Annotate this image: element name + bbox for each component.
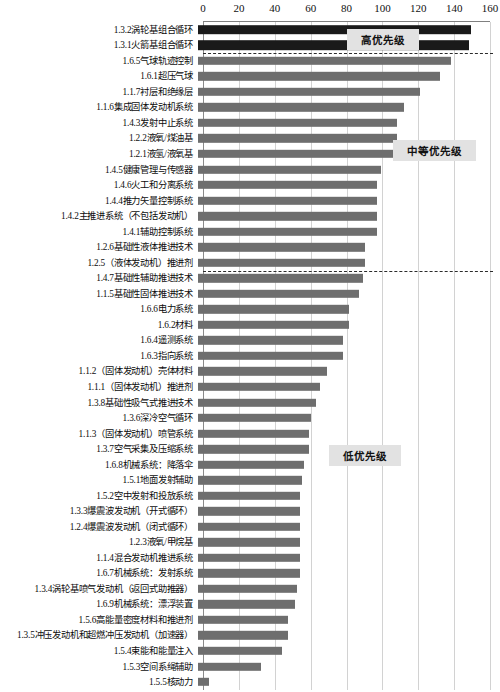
bar	[198, 150, 397, 158]
bar	[198, 181, 377, 189]
category-label: 1.2.2液氧/煤油基	[0, 133, 198, 143]
bar-row: 1.1.2（固体发动机）壳体材料	[0, 364, 500, 380]
bar-row: 1.3.3爆震波发动机（开式循环）	[0, 503, 500, 519]
bar	[198, 196, 377, 204]
bar-cell	[198, 597, 500, 613]
category-label: 1.2.4爆震波发动机（闭式循环）	[0, 522, 198, 532]
bar-row: 1.4.1辅助控制系统	[0, 224, 500, 240]
bar	[198, 72, 440, 80]
bar-row: 1.5.5核动力	[0, 674, 500, 690]
bar-cell	[198, 410, 500, 426]
separator-medium-low	[203, 271, 493, 272]
bar-cell	[198, 333, 500, 349]
bar-row: 1.1.4混合发动机推进系统	[0, 550, 500, 566]
bar	[198, 616, 288, 624]
bar-cell	[198, 317, 500, 333]
category-label: 1.4.2主推进系统（不包括发动机）	[0, 211, 198, 221]
bar-row: 1.3.2涡轮基组合循环	[0, 22, 500, 38]
category-label: 1.6.9机械系统：漂浮装置	[0, 599, 198, 609]
bar-row: 1.4.5健康管理与传感器	[0, 162, 500, 178]
bar-cell	[198, 100, 500, 116]
bar	[198, 445, 309, 453]
category-label: 1.6.7机械系统：发射系统	[0, 568, 198, 578]
bar-row: 1.1.3（固体发动机）喷管系统	[0, 426, 500, 442]
bar-row: 1.6.5气球轨迹控制	[0, 53, 500, 69]
bar	[198, 274, 363, 282]
category-label: 1.2.1液氢/液氧基	[0, 149, 198, 159]
bar-row: 1.5.4束能和能量注入	[0, 643, 500, 659]
category-label: 1.4.5健康管理与传感器	[0, 165, 198, 175]
bar	[198, 212, 377, 220]
category-label: 1.1.6集成固体发动机系统	[0, 102, 198, 112]
bar	[198, 631, 288, 639]
x-tick-label: 80	[341, 2, 352, 14]
bar	[198, 103, 404, 111]
bar-cell	[198, 519, 500, 535]
bar	[198, 585, 297, 593]
bar-cell	[198, 535, 500, 551]
bar-row: 1.4.6火工和分离系统	[0, 177, 500, 193]
x-tick-label: 60	[305, 2, 316, 14]
bar-cell	[198, 271, 500, 287]
category-label: 1.6.4遥测系统	[0, 335, 198, 345]
bar	[198, 383, 320, 391]
bar	[198, 119, 397, 127]
bar	[198, 367, 327, 375]
bar-cell	[198, 503, 500, 519]
bar	[198, 243, 365, 251]
category-label: 1.3.4涡轮基喷气发动机（返回式助推器）	[0, 584, 198, 594]
bar-row: 1.1.6集成固体发动机系统	[0, 100, 500, 116]
bar-cell	[198, 255, 500, 271]
bar	[198, 165, 381, 173]
bar-cell	[198, 69, 500, 85]
bar-cell	[198, 550, 500, 566]
bar	[198, 321, 349, 329]
band-label-low: 低优先级	[329, 445, 401, 466]
category-label: 1.6.3指向系统	[0, 351, 198, 361]
bar-cell	[198, 193, 500, 209]
category-label: 1.5.5核动力	[0, 677, 198, 687]
bar-row: 1.6.3指向系统	[0, 348, 500, 364]
x-axis-ticks: 020406080100120140160	[203, 0, 490, 22]
bar	[198, 507, 300, 515]
bar-cell	[198, 395, 500, 411]
category-label: 1.3.5冲压发动机和超燃冲压发动机（加速器）	[0, 630, 198, 640]
category-label: 1.3.8基础性吸气式推进技术	[0, 398, 198, 408]
bar-row: 1.4.4推力矢量控制系统	[0, 193, 500, 209]
bar-row: 1.4.2主推进系统（不包括发动机）	[0, 208, 500, 224]
category-label: 1.4.4推力矢量控制系统	[0, 196, 198, 206]
bar-cell	[198, 472, 500, 488]
category-label: 1.5.3空间系绳辅助	[0, 662, 198, 672]
bar	[198, 259, 365, 267]
category-label: 1.2.3液氧/甲烷基	[0, 537, 198, 547]
bar-cell	[198, 659, 500, 675]
bar-row: 1.2.6基础性液体推进技术	[0, 239, 500, 255]
bar	[198, 554, 300, 562]
x-tick-label: 100	[374, 2, 391, 14]
bar-cell	[198, 53, 500, 69]
bar-cell	[198, 162, 500, 178]
bar-rows: 1.3.2涡轮基组合循环1.3.1火箭基组合循环1.6.5气球轨迹控制1.6.1…	[0, 22, 500, 690]
category-label: 1.5.6高能量密度材料和推进剂	[0, 615, 198, 625]
category-label: 1.3.7空气采集及压缩系统	[0, 444, 198, 454]
bar-row: 1.3.4涡轮基喷气发动机（返回式助推器）	[0, 581, 500, 597]
x-tick-label: 140	[446, 2, 463, 14]
category-label: 1.5.1地面发射辅助	[0, 475, 198, 485]
bar-row: 1.1.5基础性固体推进技术	[0, 286, 500, 302]
bar-row: 1.2.3液氧/甲烷基	[0, 535, 500, 551]
category-label: 1.2.6基础性液体推进技术	[0, 242, 198, 252]
category-label: 1.1.1（固体发动机）推进剂	[0, 382, 198, 392]
bar-row: 1.4.3发射中止系统	[0, 115, 500, 131]
bar	[198, 476, 302, 484]
category-label: 1.4.7基础性辅助推进技术	[0, 273, 198, 283]
category-label: 1.2.5（液体发动机）推进剂	[0, 258, 198, 268]
bar-row: 1.3.1火箭基组合循环	[0, 38, 500, 54]
bar-row: 1.6.4遥测系统	[0, 333, 500, 349]
bar-cell	[198, 177, 500, 193]
bar-cell	[198, 566, 500, 582]
bar-cell	[198, 426, 500, 442]
x-tick-label: 20	[233, 2, 244, 14]
bar	[198, 569, 300, 577]
bar-cell	[198, 612, 500, 628]
bar-row: 1.6.8机械系统：降落伞	[0, 457, 500, 473]
